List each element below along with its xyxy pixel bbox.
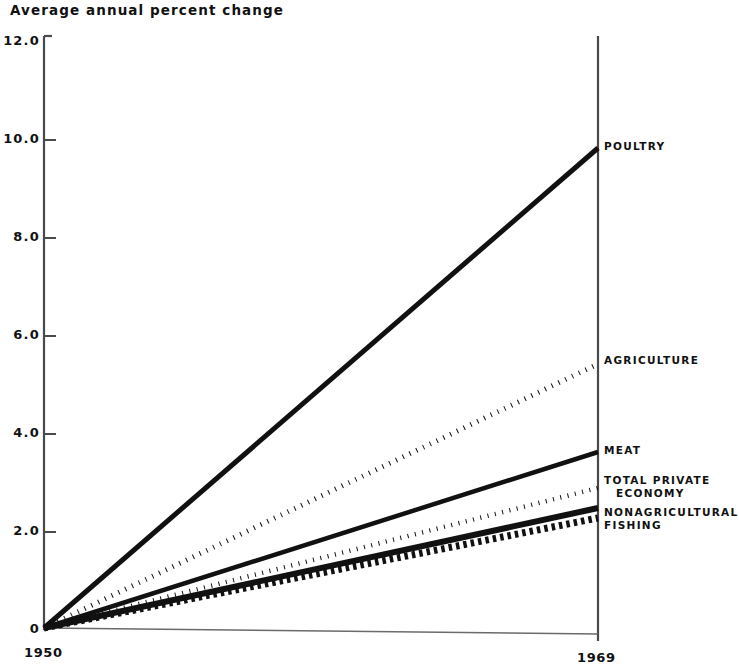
y-tick-label-10: 10.0 bbox=[0, 131, 40, 146]
series-label-meat: MEAT bbox=[604, 444, 641, 457]
series-label-agriculture: AGRICULTURE bbox=[604, 354, 699, 367]
y-tick-label-6: 6.0 bbox=[0, 327, 40, 342]
series-label-agriculture-text: AGRICULTURE bbox=[604, 354, 699, 366]
series-label-poultry-text: POULTRY bbox=[604, 140, 665, 152]
series-line-agriculture bbox=[44, 364, 598, 628]
y-tick-label-0: 0 bbox=[0, 621, 40, 636]
series-line-poultry bbox=[44, 148, 598, 628]
chart-axes bbox=[44, 36, 598, 641]
y-tick-label-4: 4.0 bbox=[0, 425, 40, 440]
series-label-nonagricultural-fishing: NONAGRICULTURAL FISHING bbox=[604, 506, 739, 532]
series-line-meat bbox=[44, 452, 598, 628]
series-label-total-private-line2: ECONOMY bbox=[604, 487, 711, 500]
series-label-fishing-text: FISHING bbox=[604, 519, 739, 532]
series-label-nonagricultural-text: NONAGRICULTURAL bbox=[604, 506, 739, 518]
series-label-poultry: POULTRY bbox=[604, 140, 665, 153]
y-tick-label-8: 8.0 bbox=[0, 229, 40, 244]
series-label-meat-text: MEAT bbox=[604, 444, 641, 456]
x-tick-label-1969: 1969 bbox=[577, 650, 616, 665]
x-tick-label-1950: 1950 bbox=[24, 645, 63, 660]
series-label-total-private-economy: TOTAL PRIVATE ECONOMY bbox=[604, 474, 711, 500]
series-label-total-private-line1: TOTAL PRIVATE bbox=[604, 474, 711, 486]
y-tick-label-12: 12.0 bbox=[0, 33, 40, 48]
y-tick-label-2: 2.0 bbox=[0, 523, 40, 538]
series-line-fishing bbox=[44, 518, 598, 628]
chart-series-group bbox=[44, 148, 598, 628]
x-axis-line bbox=[44, 628, 598, 634]
